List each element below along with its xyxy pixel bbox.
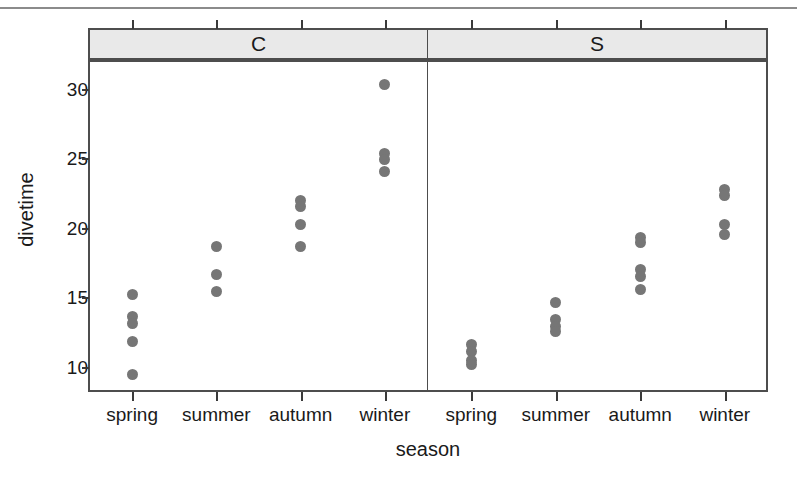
top-tick-C-autumn [301, 20, 303, 29]
data-point [719, 229, 730, 240]
top-tick-C-summer [216, 20, 218, 29]
panel-header-S: S [427, 28, 768, 60]
bottom-tick-S-autumn [640, 392, 642, 401]
data-point [127, 289, 138, 300]
bottom-tick-S-spring [471, 392, 473, 401]
top-tick-C-spring [132, 20, 134, 29]
top-tick-C-winter [385, 20, 387, 29]
panel-header-S-label: S [590, 32, 604, 56]
y-tick-mark-15 [82, 297, 89, 299]
x-axis-title: season [88, 438, 768, 461]
panel-header-C: C [88, 28, 428, 60]
data-point [127, 336, 138, 347]
bottom-tick-C-winter [385, 392, 387, 401]
bottom-tick-C-autumn [301, 392, 303, 401]
top-tick-S-spring [471, 20, 473, 29]
panel-S-plot-area [427, 60, 768, 392]
top-tick-S-winter [725, 20, 727, 29]
panel-header-C-label: C [251, 32, 266, 56]
bottom-tick-S-summer [556, 392, 558, 401]
x-tick-label-S-winter: winter [670, 404, 780, 426]
y-tick-mark-10 [82, 367, 89, 369]
y-tick-mark-30 [82, 89, 89, 91]
y-tick-mark-20 [82, 228, 89, 230]
data-point [635, 271, 646, 282]
bottom-tick-S-winter [725, 392, 727, 401]
data-point [211, 286, 222, 297]
data-point [127, 369, 138, 380]
top-tick-S-autumn [640, 20, 642, 29]
data-point [127, 318, 138, 329]
data-point [211, 269, 222, 280]
bottom-tick-C-summer [216, 392, 218, 401]
divetime-season-scatter-figure: divetime season 1015202530 C S springsum… [0, 0, 797, 487]
data-point [635, 237, 646, 248]
bottom-tick-C-spring [132, 392, 134, 401]
top-tick-S-summer [556, 20, 558, 29]
panel-C-plot-area [88, 60, 428, 392]
y-tick-mark-25 [82, 158, 89, 160]
